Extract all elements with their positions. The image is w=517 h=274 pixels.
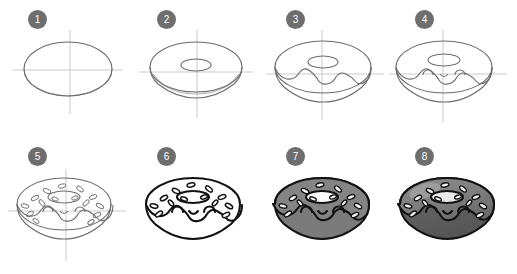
step-illustration-8 xyxy=(387,159,516,274)
donut-body-3 xyxy=(275,41,371,102)
step-panel-7: 7 xyxy=(258,137,387,274)
step-illustration-6 xyxy=(129,159,258,274)
sprinkles-5 xyxy=(21,183,105,225)
donut-hole-3 xyxy=(308,56,338,68)
step-panel-3: 3 xyxy=(258,0,387,137)
guide-lines-2 xyxy=(139,30,253,118)
step-illustration-1 xyxy=(0,22,129,137)
step-illustration-2 xyxy=(129,22,258,137)
donut-body-4 xyxy=(396,41,492,102)
glaze-drip-edge-3 xyxy=(275,68,371,84)
donut-base-ellipse-1 xyxy=(24,42,112,96)
tutorial-grid: 1 2 xyxy=(0,0,517,274)
step-panel-5: 5 xyxy=(0,137,129,274)
step-panel-4: 4 xyxy=(387,0,516,137)
donut-hole-4 xyxy=(428,54,460,66)
step-illustration-7 xyxy=(258,159,387,274)
step-illustration-3 xyxy=(258,22,387,137)
guide-lines-1 xyxy=(12,30,122,114)
guide-lines-3 xyxy=(266,30,384,120)
step-illustration-5 xyxy=(0,159,129,274)
step-illustration-4 xyxy=(387,22,516,137)
step-panel-6: 6 xyxy=(129,137,258,274)
step-panel-2: 2 xyxy=(129,0,258,137)
donut-body-2 xyxy=(150,42,242,98)
step-panel-8: 8 xyxy=(387,137,516,274)
donut-hole-2 xyxy=(181,59,211,71)
step-panel-1: 1 xyxy=(0,0,129,137)
